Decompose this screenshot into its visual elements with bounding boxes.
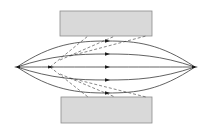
trajectories-group — [17, 39, 195, 95]
dashed-line — [60, 36, 115, 60]
trajectory-curve — [17, 67, 195, 80]
focus-point — [192, 66, 198, 69]
dashed-line — [50, 36, 88, 67]
top-plate — [60, 11, 152, 36]
trajectory-diagram — [0, 0, 209, 131]
arrow-marker-icon — [105, 52, 110, 56]
dashed-line — [50, 67, 88, 97]
arrow-marker-icon — [105, 39, 110, 43]
bottom-plate — [61, 97, 152, 123]
arrow-marker-icon — [105, 91, 110, 95]
source-point — [14, 66, 20, 69]
arrow-marker-icon — [105, 78, 110, 82]
arrow-marker-icon — [105, 65, 110, 69]
trajectory-curve — [17, 54, 195, 67]
